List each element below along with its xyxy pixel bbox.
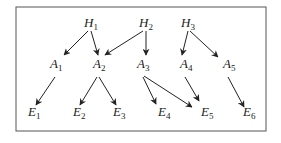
- node-e2: E2: [72, 104, 85, 121]
- edge-a2-e3: [99, 77, 116, 105]
- node-a1: A1: [49, 56, 62, 73]
- node-e6: E6: [242, 104, 256, 121]
- edge-a3-e5: [144, 76, 192, 107]
- edge-h2-a2: [105, 31, 143, 55]
- edge-h3-a4: [182, 31, 188, 55]
- directed-graph: H1H2H3A1A2A3A4A5E1E2E3E4E5E6: [0, 0, 281, 143]
- node-a2: A2: [92, 56, 105, 73]
- node-e1: E1: [27, 104, 40, 121]
- edge-a2-e2: [80, 77, 97, 105]
- edge-a1-e1: [36, 77, 55, 105]
- edge-a3-e4: [143, 77, 156, 104]
- edge-h1-a2: [91, 31, 98, 55]
- node-h2: H2: [138, 15, 153, 32]
- node-e5: E5: [200, 104, 214, 121]
- edge-h1-a1: [64, 31, 88, 55]
- node-a4: A4: [179, 56, 193, 73]
- node-a3: A3: [136, 56, 150, 73]
- node-e4: E4: [157, 104, 171, 121]
- node-a5: A5: [222, 56, 236, 73]
- edge-h3-a5: [190, 31, 218, 57]
- nodes-group: H1H2H3A1A2A3A4A5E1E2E3E4E5E6: [27, 15, 256, 121]
- edge-a4-e5: [185, 77, 199, 101]
- node-e3: E3: [112, 104, 126, 121]
- node-h3: H3: [180, 15, 195, 32]
- node-h1: H1: [83, 15, 98, 32]
- edge-a5-e6: [228, 77, 244, 107]
